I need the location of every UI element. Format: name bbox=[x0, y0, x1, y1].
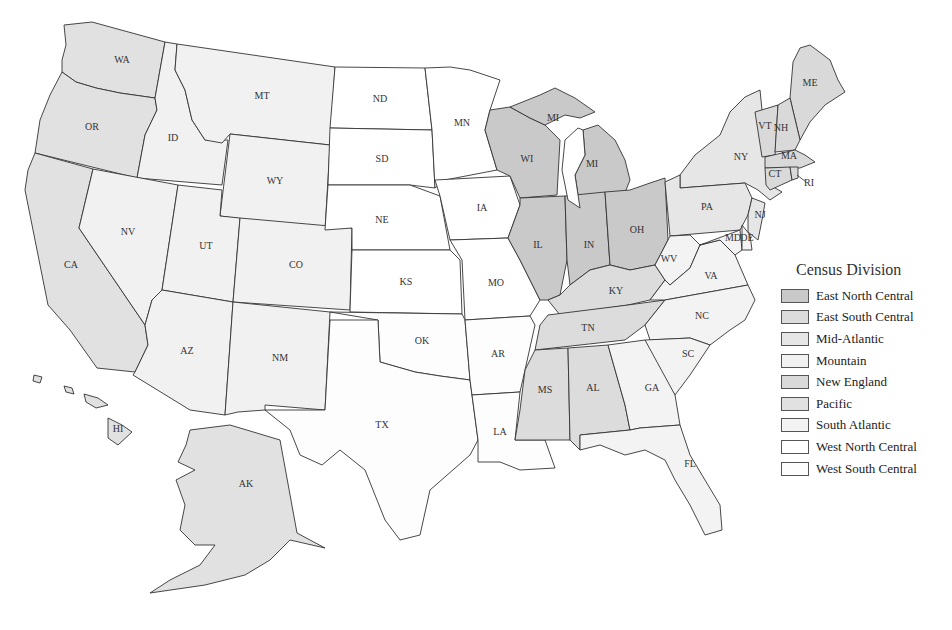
state-label-co: CO bbox=[289, 259, 303, 270]
legend-label: New England bbox=[816, 374, 887, 390]
legend-title: Census Division bbox=[796, 261, 951, 279]
state-label-ia: IA bbox=[477, 202, 488, 213]
legend-item: West South Central bbox=[781, 458, 951, 480]
legend-swatch bbox=[781, 354, 809, 368]
state-label-mt: MT bbox=[255, 90, 270, 101]
state-fl[interactable] bbox=[580, 425, 722, 535]
state-label-wy: WY bbox=[267, 175, 284, 186]
state-label-hi: HI bbox=[113, 423, 124, 434]
state-label-mi: MI bbox=[547, 112, 559, 123]
state-label-ct: CT bbox=[769, 168, 782, 179]
state-label-ny: NY bbox=[734, 151, 748, 162]
state-label-de: DE bbox=[740, 232, 753, 243]
state-label-la: LA bbox=[493, 426, 507, 437]
state-label-nj: NJ bbox=[754, 209, 765, 220]
state-label-ut: UT bbox=[199, 240, 212, 251]
state-label-mn: MN bbox=[454, 117, 470, 128]
state-label-nc: NC bbox=[695, 310, 709, 321]
state-label-oh: OH bbox=[630, 224, 644, 235]
legend-swatch bbox=[781, 289, 809, 303]
state-label-nm: NM bbox=[272, 352, 288, 363]
legend-swatch bbox=[781, 440, 809, 454]
legend-item: Mid-Atlantic bbox=[781, 328, 951, 350]
state-label-nd: ND bbox=[373, 93, 387, 104]
state-label-ri: RI bbox=[804, 177, 814, 188]
state-label-ca: CA bbox=[64, 259, 79, 270]
state-label-ok: OK bbox=[415, 335, 430, 346]
legend-label: West North Central bbox=[816, 439, 917, 455]
legend-swatch bbox=[781, 375, 809, 389]
state-label-ma: MA bbox=[781, 150, 798, 161]
state-label-fl: FL bbox=[684, 458, 696, 469]
legend-label: Pacific bbox=[816, 396, 852, 412]
legend: Census Division East North CentralEast S… bbox=[781, 261, 951, 479]
state-label-az: AZ bbox=[180, 345, 193, 356]
state-label-ms: MS bbox=[538, 384, 552, 395]
state-label-ky: KY bbox=[609, 285, 623, 296]
legend-item: New England bbox=[781, 371, 951, 393]
division-west-north-central bbox=[325, 67, 540, 320]
state-hi-islands bbox=[33, 375, 108, 408]
state-label-nv: NV bbox=[121, 226, 136, 237]
legend-items: East North CentralEast South CentralMid-… bbox=[781, 285, 951, 479]
state-label-ne: NE bbox=[375, 214, 388, 225]
state-label-il: IL bbox=[533, 239, 542, 250]
state-label-al: AL bbox=[586, 382, 599, 393]
legend-label: West South Central bbox=[816, 461, 917, 477]
state-label-md: MD bbox=[725, 232, 741, 243]
state-label-id: ID bbox=[168, 132, 179, 143]
state-label-me: ME bbox=[803, 77, 818, 88]
state-label-ga: GA bbox=[645, 382, 660, 393]
legend-swatch bbox=[781, 397, 809, 411]
state-me[interactable] bbox=[790, 45, 845, 140]
state-label-nh: NH bbox=[774, 122, 788, 133]
state-label-va: VA bbox=[704, 270, 718, 281]
state-label-tx: TX bbox=[375, 419, 389, 430]
state-label-wi: WI bbox=[521, 153, 534, 164]
state-label-wa: WA bbox=[114, 54, 130, 65]
state-label-ks: KS bbox=[400, 276, 413, 287]
state-label-sd: SD bbox=[376, 153, 389, 164]
state-label-ak: AK bbox=[239, 478, 254, 489]
legend-swatch bbox=[781, 462, 809, 476]
state-label-sc: SC bbox=[682, 348, 695, 359]
legend-swatch bbox=[781, 332, 809, 346]
state-label-vt: VT bbox=[758, 120, 771, 131]
legend-label: Mid-Atlantic bbox=[816, 331, 884, 347]
legend-item: Mountain bbox=[781, 350, 951, 372]
legend-label: Mountain bbox=[816, 353, 867, 369]
state-label-wv: WV bbox=[661, 253, 678, 264]
legend-swatch bbox=[781, 310, 809, 324]
legend-label: East South Central bbox=[816, 309, 914, 325]
state-label-pa: PA bbox=[701, 201, 714, 212]
state-label-ar: AR bbox=[491, 348, 505, 359]
legend-item: Pacific bbox=[781, 393, 951, 415]
legend-item: East South Central bbox=[781, 307, 951, 329]
state-label-or: OR bbox=[85, 121, 99, 132]
legend-label: South Atlantic bbox=[816, 417, 891, 433]
legend-label: East North Central bbox=[816, 288, 913, 304]
state-label-tn: TN bbox=[581, 322, 594, 333]
legend-item: South Atlantic bbox=[781, 415, 951, 437]
state-label-mi: MI bbox=[586, 158, 598, 169]
legend-item: West North Central bbox=[781, 436, 951, 458]
state-label-mo: MO bbox=[488, 277, 504, 288]
legend-item: East North Central bbox=[781, 285, 951, 307]
legend-swatch bbox=[781, 418, 809, 432]
state-label-in: IN bbox=[584, 239, 595, 250]
